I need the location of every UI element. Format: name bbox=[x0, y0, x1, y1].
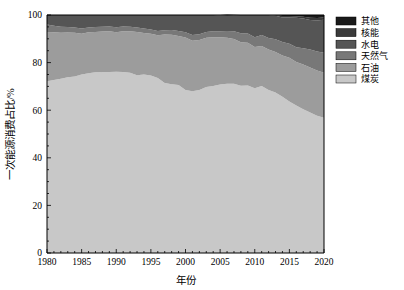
x-tick-label: 2005 bbox=[211, 257, 230, 267]
y-tick-label: 40 bbox=[33, 153, 43, 163]
legend-swatch-4 bbox=[336, 63, 356, 71]
legend-label-1: 核能 bbox=[361, 27, 379, 38]
energy-consumption-chart-figure: 198019851990199520002005201020152020 020… bbox=[0, 0, 404, 290]
x-tick-label: 1990 bbox=[107, 257, 126, 267]
legend-label-0: 其他 bbox=[361, 15, 379, 26]
x-tick-label: 2015 bbox=[280, 257, 299, 267]
area-band-0 bbox=[47, 72, 324, 253]
legend-swatch-2 bbox=[336, 40, 356, 48]
y-tick-label: 100 bbox=[28, 10, 43, 20]
legend-label-4: 石油 bbox=[361, 62, 379, 73]
y-tick-label: 60 bbox=[33, 106, 43, 116]
x-tick-label: 2000 bbox=[176, 257, 195, 267]
y-tick-label: 0 bbox=[37, 248, 42, 258]
legend-label-3: 天然气 bbox=[361, 50, 388, 61]
legend-swatch-0 bbox=[336, 17, 356, 25]
y-axis-title: 一次能源消费占比/% bbox=[4, 88, 16, 180]
legend-label-2: 水电 bbox=[361, 39, 379, 50]
x-tick-label: 1995 bbox=[141, 257, 160, 267]
x-tick-label: 2010 bbox=[245, 257, 264, 267]
legend-swatch-5 bbox=[336, 75, 356, 83]
legend-swatch-3 bbox=[336, 52, 356, 60]
legend-label-5: 煤炭 bbox=[361, 73, 379, 84]
x-axis-title: 年份 bbox=[176, 274, 197, 286]
x-axis-ticks: 198019851990199520002005201020152020 bbox=[38, 249, 334, 267]
y-tick-label: 20 bbox=[33, 201, 43, 211]
x-tick-label: 1985 bbox=[72, 257, 91, 267]
stacked-area-chart: 198019851990199520002005201020152020 020… bbox=[0, 0, 404, 290]
y-tick-label: 80 bbox=[33, 58, 43, 68]
x-tick-label: 1980 bbox=[38, 257, 57, 267]
legend-swatch-1 bbox=[336, 29, 356, 37]
x-tick-label: 2020 bbox=[315, 257, 334, 267]
area-bands-group bbox=[47, 15, 324, 253]
